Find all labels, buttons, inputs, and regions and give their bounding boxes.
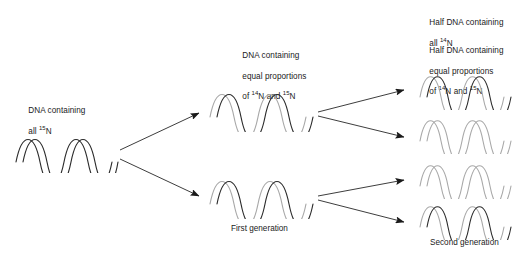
arrow-parent-to-gen1-lower — [120, 159, 199, 196]
arrow-gen1-lower-to-gen2-4 — [318, 200, 404, 222]
dna-replication-diagram: DNA containing all 15N DNA containing eq… — [0, 0, 528, 259]
dna-strand-old — [217, 95, 313, 133]
first-generation-dna-lower — [208, 172, 318, 219]
dna-strand-new — [427, 121, 511, 154]
dna-strand-old — [16, 140, 112, 174]
dna-strand-old — [23, 140, 118, 174]
arrow-gen1-upper-to-gen2-1 — [318, 90, 404, 112]
second-generation-dna-1 — [418, 68, 526, 110]
arrow-gen1-upper-to-gen2-2 — [318, 116, 404, 137]
dna-strand-old — [427, 207, 511, 240]
first-generation-dna-upper — [208, 85, 318, 132]
second-generation-dna-2 — [418, 112, 526, 154]
second-generation-dna-4 — [418, 198, 526, 240]
dna-strand-new — [427, 166, 511, 199]
dna-strand-old — [217, 182, 313, 220]
arrow-gen1-lower-to-gen2-3 — [318, 180, 404, 196]
arrow-parent-to-gen1-upper — [120, 113, 199, 150]
second-generation-dna-3 — [418, 157, 526, 199]
parental-dna-helix — [14, 128, 119, 173]
dna-strand-old — [427, 77, 511, 110]
